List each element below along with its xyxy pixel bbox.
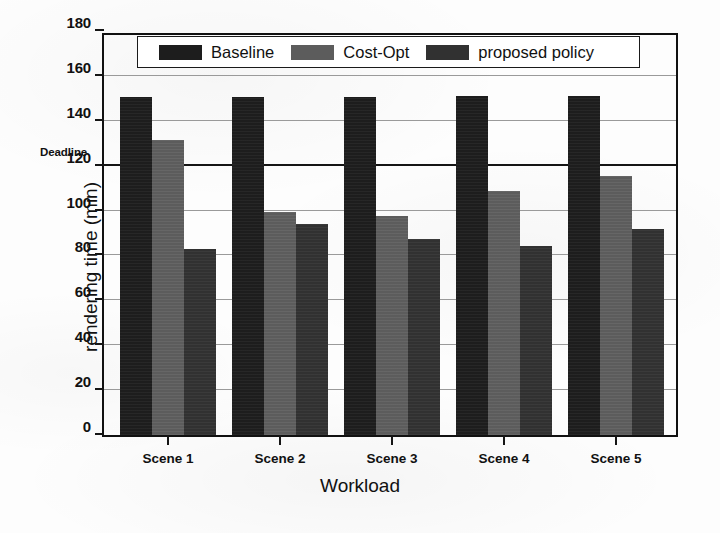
bar-scene-4-baseline bbox=[456, 96, 488, 435]
bar-scene-3-baseline bbox=[344, 97, 376, 435]
y-axis-tick-20 bbox=[95, 388, 104, 390]
legend-label: Baseline bbox=[211, 43, 274, 62]
x-axis-tick bbox=[391, 435, 393, 445]
y-axis-tick-80 bbox=[95, 253, 104, 255]
legend-swatch-icon bbox=[159, 45, 202, 60]
y-axis-tick-60 bbox=[95, 298, 104, 300]
x-axis-tick bbox=[279, 435, 281, 445]
y-axis-tick-label: 0 bbox=[83, 418, 91, 435]
y-axis-tick-180 bbox=[95, 29, 104, 31]
bar-scene-5-cost-opt bbox=[600, 176, 632, 435]
x-axis-tick-label-scene-5: Scene 5 bbox=[590, 451, 641, 466]
bar-scene-4-proposed-policy bbox=[520, 246, 552, 435]
x-axis-tick-label-scene-1: Scene 1 bbox=[142, 451, 193, 466]
gridline-160 bbox=[104, 75, 676, 76]
x-axis-tick bbox=[503, 435, 505, 445]
y-axis-tick-label: 140 bbox=[67, 103, 91, 120]
y-axis-tick-160 bbox=[95, 74, 104, 76]
bar-scene-4-cost-opt bbox=[488, 191, 520, 435]
y-axis-tick-label: 160 bbox=[67, 58, 91, 75]
y-axis-tick-label: 80 bbox=[75, 238, 91, 255]
x-axis-tick-label-scene-2: Scene 2 bbox=[254, 451, 305, 466]
legend-swatch-icon bbox=[291, 45, 334, 60]
y-axis-tick-140 bbox=[95, 119, 104, 121]
y-axis-tick-label: 40 bbox=[75, 328, 91, 345]
bar-chart-figure: rendering time (min) Workload Deadline 0… bbox=[0, 0, 720, 533]
bar-scene-3-cost-opt bbox=[376, 216, 408, 435]
legend-entry-cost-opt: Cost-Opt bbox=[291, 43, 409, 62]
y-axis-tick-label: 180 bbox=[67, 14, 91, 31]
plot-area: 020406080100120140160180Scene 1Scene 2Sc… bbox=[102, 33, 678, 437]
legend-label: Cost-Opt bbox=[343, 43, 409, 62]
y-axis-tick-label: 60 bbox=[75, 283, 91, 300]
x-axis-tick bbox=[615, 435, 617, 445]
y-axis-tick-100 bbox=[95, 209, 104, 211]
x-axis-tick-label-scene-4: Scene 4 bbox=[478, 451, 529, 466]
bar-scene-2-cost-opt bbox=[264, 212, 296, 435]
y-axis-tick-0 bbox=[95, 433, 104, 435]
y-axis-tick-label: 20 bbox=[75, 373, 91, 390]
x-axis-title: Workload bbox=[0, 475, 720, 497]
y-axis-tick-label: 120 bbox=[67, 148, 91, 165]
legend-swatch-icon bbox=[426, 45, 469, 60]
bar-scene-1-cost-opt bbox=[152, 140, 184, 435]
bar-scene-2-proposed-policy bbox=[296, 224, 328, 435]
chart-legend: BaselineCost-Optproposed policy bbox=[137, 36, 640, 68]
legend-entry-baseline: Baseline bbox=[159, 43, 274, 62]
bar-scene-3-proposed-policy bbox=[408, 239, 440, 435]
legend-entry-proposed-policy: proposed policy bbox=[426, 43, 594, 62]
legend-label: proposed policy bbox=[478, 43, 594, 62]
x-axis-tick bbox=[167, 435, 169, 445]
bar-scene-2-baseline bbox=[232, 97, 264, 435]
y-axis-tick-label: 100 bbox=[67, 193, 91, 210]
bar-scene-5-baseline bbox=[568, 96, 600, 435]
bar-scene-1-baseline bbox=[120, 97, 152, 435]
bar-scene-5-proposed-policy bbox=[632, 229, 664, 435]
bar-scene-1-proposed-policy bbox=[184, 249, 216, 435]
y-axis-tick-120 bbox=[95, 164, 104, 166]
x-axis-tick-label-scene-3: Scene 3 bbox=[366, 451, 417, 466]
y-axis-tick-40 bbox=[95, 343, 104, 345]
